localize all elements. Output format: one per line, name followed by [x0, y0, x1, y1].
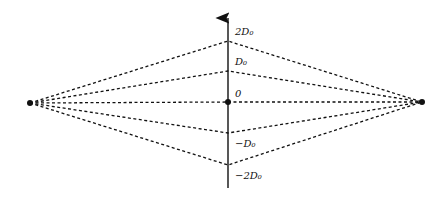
ray-path — [30, 41, 422, 103]
level-label: D₀ — [234, 56, 247, 67]
right-target-point — [419, 99, 425, 105]
level-label: 0 — [235, 88, 242, 99]
level-labels: 2D₀D₀0−D₀−2D₀ — [234, 26, 262, 181]
ray-path — [30, 71, 422, 103]
origin-point — [225, 99, 231, 105]
level-label: −2D₀ — [235, 170, 262, 181]
level-label: 2D₀ — [234, 26, 253, 37]
level-label: −D₀ — [235, 138, 255, 149]
ray-path — [30, 102, 422, 133]
left-source-point — [27, 100, 33, 106]
diagram-canvas: 2D₀D₀0−D₀−2D₀ — [0, 0, 447, 200]
